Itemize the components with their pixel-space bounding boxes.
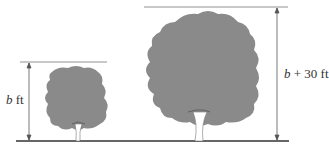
large-tree-height-label: b + 30 ft xyxy=(284,66,329,82)
large-tree-height-rest: + 30 ft xyxy=(291,66,329,81)
small-tree xyxy=(45,66,108,141)
large-tree-height-arrow xyxy=(275,8,279,140)
small-tree-height-unit: ft xyxy=(13,92,24,107)
large-tree xyxy=(146,11,259,141)
small-tree-height-label: b ft xyxy=(6,92,24,108)
small-tree-height-arrow xyxy=(27,63,31,140)
